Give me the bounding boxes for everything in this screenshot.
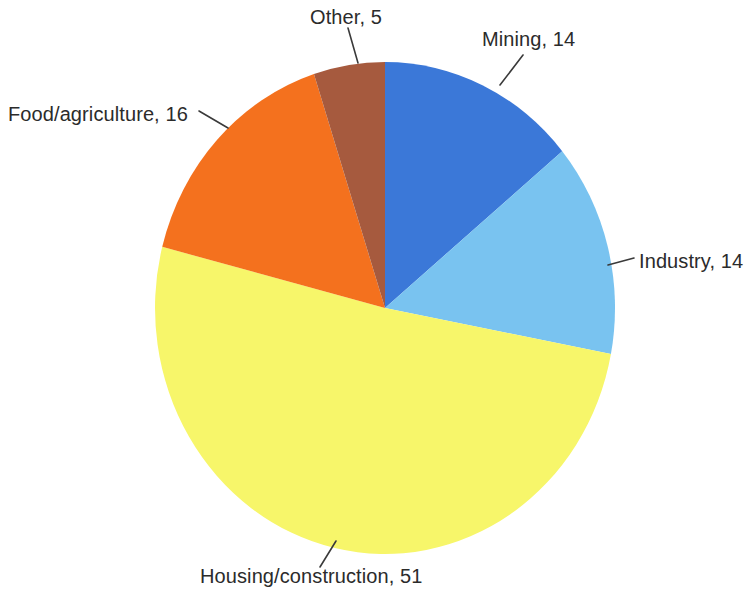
pie-slices (155, 62, 615, 554)
leader-line-industry (608, 258, 634, 265)
slice-label-food-agriculture: Food/agriculture, 16 (8, 104, 188, 124)
leader-line-mining (500, 55, 523, 85)
slice-label-housing-construction: Housing/construction, 51 (200, 566, 423, 586)
slice-label-mining: Mining, 14 (482, 29, 575, 49)
slice-label-other: Other, 5 (310, 7, 382, 27)
leader-line-food (199, 111, 228, 128)
slice-label-industry: Industry, 14 (639, 251, 743, 271)
pie-chart-canvas (0, 0, 756, 594)
pie-chart: Other, 5 Mining, 14 Food/agriculture, 16… (0, 0, 756, 594)
leader-line-other (348, 28, 358, 63)
